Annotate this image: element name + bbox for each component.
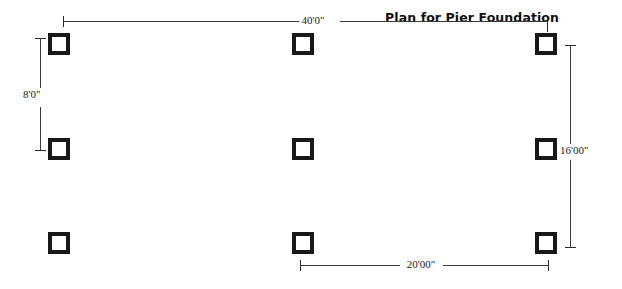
- left-dimension-label: 8'0": [21, 88, 42, 100]
- top-dimension-tick-left: [63, 16, 64, 27]
- bottom-dimension-label: 20'00": [405, 258, 437, 270]
- pier-r3-c3: [535, 232, 557, 254]
- pier-r1-c1: [48, 33, 70, 55]
- pier-r2-c1: [48, 138, 70, 160]
- top-dimension-tick-right: [547, 21, 548, 32]
- right-dimension-line-lower-segment: [570, 160, 571, 247]
- left-dimension-tick-bottom: [35, 150, 46, 151]
- left-dimension-tick-top: [35, 38, 46, 39]
- pier-r2-c3: [535, 138, 557, 160]
- right-dimension-label: 16'00": [558, 144, 590, 156]
- left-dimension-line-lower-segment: [40, 107, 41, 150]
- right-dimension-tick-bottom: [565, 247, 576, 248]
- right-dimension-tick-top: [565, 45, 576, 46]
- bottom-dimension-tick-right: [548, 260, 549, 271]
- right-dimension-line-upper-segment: [570, 45, 571, 144]
- top-dimension-label: 40'0": [300, 14, 327, 26]
- pier-r3-c2: [292, 232, 314, 254]
- top-dimension-line-left-segment: [63, 21, 310, 22]
- left-dimension-line-upper-segment: [40, 38, 41, 88]
- bottom-dimension-line-left-segment: [300, 265, 400, 266]
- bottom-dimension-tick-left: [300, 260, 301, 271]
- pier-foundation-plan-drawing: Plan for Pier Foundation 40'0" 8'0" 16'0…: [0, 0, 622, 289]
- pier-r1-c2: [292, 33, 314, 55]
- page-title: Plan for Pier Foundation: [383, 10, 561, 25]
- top-dimension-line-right-segment: [340, 21, 547, 22]
- pier-r1-c3: [535, 33, 557, 55]
- pier-r3-c1: [48, 232, 70, 254]
- bottom-dimension-line-right-segment: [443, 265, 548, 266]
- pier-r2-c2: [292, 138, 314, 160]
